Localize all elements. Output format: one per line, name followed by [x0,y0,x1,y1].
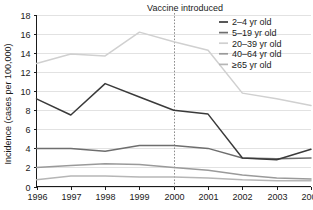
y-axis-title: Incidence (cases per 100,000) [3,43,13,164]
x-tick-label: 2002 [232,192,252,202]
incidence-line-chart: Vaccine introduced Incidence (cases per … [0,0,313,210]
x-axis-tick-labels: 199619971998199920002001200220032004 [27,192,313,202]
y-tick-label: 14 [20,49,30,59]
legend-label-5: ≥65 yr old [232,60,271,70]
y-tick-label: 18 [20,11,30,21]
chart-figure: Vaccine introduced Incidence (cases per … [0,0,313,210]
y-tick-label: 4 [25,144,30,154]
x-tick-label: 2003 [267,192,287,202]
y-tick-label: 12 [20,68,30,78]
x-tick-label: 1998 [95,192,115,202]
x-tick-label: 1997 [61,192,81,202]
y-tick-label: 16 [20,30,30,40]
legend-label-2: 5–19 yr old [232,28,277,38]
x-tick-label: 2004 [301,192,313,202]
y-tick-label: 2 [25,163,30,173]
legend-label-4: 40–64 yr old [232,49,282,59]
x-tick-label: 1999 [129,192,149,202]
y-tick-label: 8 [25,106,30,116]
y-tick-label: 6 [25,125,30,135]
y-tick-label: 10 [20,87,30,97]
legend-label-3: 20–39 yr old [232,39,282,49]
legend-label-1: 2–4 yr old [232,17,272,27]
x-tick-label: 2000 [164,192,184,202]
x-tick-label: 1996 [27,192,47,202]
x-tick-label: 2001 [198,192,218,202]
chart-title: Vaccine introduced [147,3,223,13]
